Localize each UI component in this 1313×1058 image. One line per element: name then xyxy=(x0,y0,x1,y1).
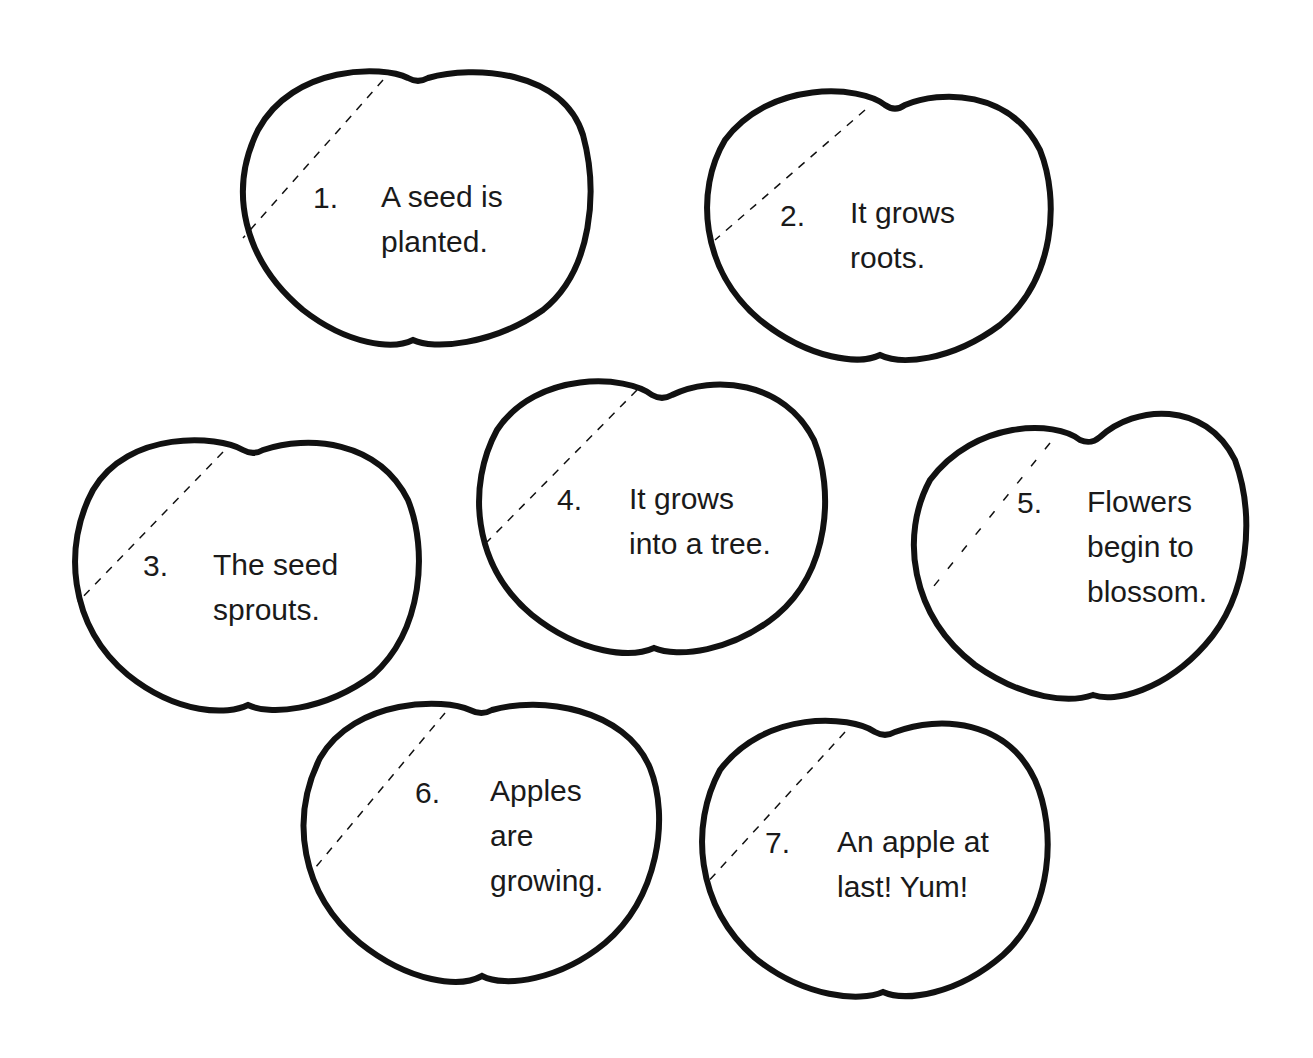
step-number: 5. xyxy=(1017,485,1042,522)
step-text: Flowers begin to blossom. xyxy=(1087,479,1207,614)
step-text: An apple at last! Yum! xyxy=(837,819,989,909)
apple-card-2: 2. It grows roots. xyxy=(700,80,1060,370)
step-number: 7. xyxy=(765,825,790,862)
apple-outline-icon xyxy=(300,698,670,988)
step-text: The seed sprouts. xyxy=(213,542,338,632)
apple-card-5: 5. Flowers begin to blossom. xyxy=(905,405,1257,705)
step-number: 4. xyxy=(557,482,582,519)
step-text: Apples are growing. xyxy=(490,768,603,903)
apple-card-6: 6. Apples are growing. xyxy=(300,698,670,988)
step-text: A seed is planted. xyxy=(381,174,503,264)
step-text: It grows roots. xyxy=(850,190,955,280)
apple-card-7: 7. An apple at last! Yum! xyxy=(695,710,1055,1005)
apple-life-cycle-worksheet: 1. A seed is planted. 2. It grows roots.… xyxy=(0,0,1313,1058)
step-text: It grows into a tree. xyxy=(629,476,771,566)
apple-card-1: 1. A seed is planted. xyxy=(233,60,603,360)
step-number: 2. xyxy=(780,198,805,235)
apple-card-4: 4. It grows into a tree. xyxy=(472,370,834,662)
step-number: 1. xyxy=(313,180,338,217)
step-number: 6. xyxy=(415,775,440,812)
step-number: 3. xyxy=(143,548,168,585)
apple-card-3: 3. The seed sprouts. xyxy=(68,430,428,720)
